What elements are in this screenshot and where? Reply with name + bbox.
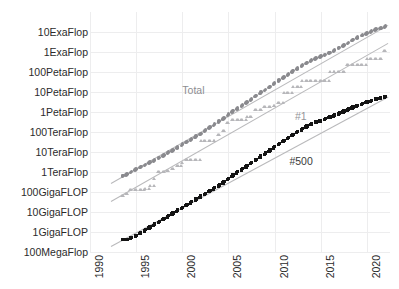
gridline-vertical [182, 12, 183, 252]
data-point [259, 108, 263, 111]
data-point [152, 177, 156, 180]
gridline-horizontal [90, 152, 390, 153]
series-annotation-n500: #500 [289, 156, 312, 166]
data-point [152, 184, 156, 187]
data-point [272, 104, 276, 107]
gridline-horizontal [90, 192, 390, 193]
gridline-vertical [90, 12, 91, 252]
data-point [379, 57, 383, 60]
data-point [384, 24, 388, 28]
x-axis-tick-label: 2005 [232, 255, 242, 278]
x-axis-tick-label: 1995 [140, 255, 150, 278]
data-point [244, 118, 248, 121]
gridline-horizontal [90, 132, 390, 133]
data-point [217, 133, 221, 136]
y-axis-tick-label: 1ExaFlop [44, 47, 88, 57]
x-axis-tick-label: 2010 [279, 255, 289, 278]
data-point [147, 187, 151, 190]
data-point [384, 95, 387, 98]
y-axis-tick-label: 1PetaFlop [40, 107, 88, 117]
series-annotation-total: Total [182, 85, 204, 95]
gridline-vertical [367, 12, 368, 252]
data-point [273, 81, 277, 85]
gridline-horizontal [90, 92, 390, 93]
y-axis-tick-label: 10TeraFlop [35, 147, 88, 157]
data-point [222, 129, 226, 132]
x-axis-tick-label: 2020 [371, 255, 381, 278]
data-point [296, 66, 300, 70]
data-point [299, 85, 303, 88]
data-point [249, 115, 253, 118]
data-point [176, 145, 180, 149]
y-axis-tick-label: 10GigaFLOP [27, 207, 88, 217]
data-point [226, 121, 230, 124]
y-axis-tick-label: 100GigaFLOP [21, 187, 88, 197]
data-point [364, 63, 368, 66]
y-axis-tick-label: 1GigaFLOP [33, 227, 88, 237]
data-point [198, 158, 202, 161]
series-annotation-n1: #1 [295, 111, 307, 121]
data-point [199, 132, 203, 136]
y-axis-tick-label: 100TeraFlop [30, 127, 88, 137]
gridline-horizontal [90, 212, 390, 213]
top500-performance-chart: Total#1#500 10ExaFlop1ExaFlop100PetaFlop… [0, 0, 399, 289]
y-axis-tick-label: 1TeraFlop [41, 167, 88, 177]
data-point [212, 139, 216, 142]
data-point [342, 70, 346, 73]
data-point [153, 158, 157, 162]
data-point [180, 161, 184, 164]
data-point [327, 79, 331, 82]
y-axis-tick-label: 10PetaFlop [34, 87, 88, 97]
data-point [259, 90, 263, 94]
gridline-horizontal [90, 32, 390, 33]
y-axis-tick-label: 100PetaFlop [28, 67, 88, 77]
data-point [213, 122, 217, 126]
gridline-vertical [275, 12, 276, 252]
data-point [356, 35, 360, 39]
data-point [383, 49, 387, 52]
plot-area: Total#1#500 [90, 12, 390, 252]
data-point [125, 192, 129, 195]
gridline-horizontal [90, 52, 390, 53]
x-axis-tick-label: 1990 [94, 255, 104, 278]
x-axis-tick-label: 2015 [325, 255, 335, 278]
y-axis-tick-label: 10ExaFlop [38, 27, 88, 37]
data-point [281, 101, 285, 104]
data-point [171, 167, 175, 170]
gridline-horizontal [90, 252, 390, 253]
y-axis-tick-label: 100MegaFlop [24, 247, 88, 257]
data-point [290, 91, 294, 94]
gridline-horizontal [90, 172, 390, 173]
x-axis-tick-label: 2000 [186, 255, 196, 278]
data-point [222, 116, 226, 120]
gridline-vertical [136, 12, 137, 252]
